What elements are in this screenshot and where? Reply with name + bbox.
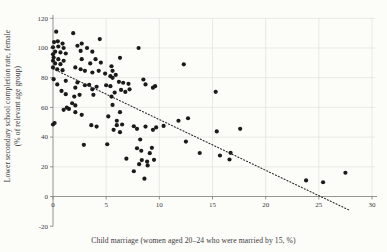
data-point xyxy=(110,76,114,80)
data-point xyxy=(80,57,84,61)
data-point xyxy=(104,83,108,87)
data-point xyxy=(136,46,140,50)
data-point xyxy=(52,40,56,44)
data-point xyxy=(114,73,118,77)
data-point xyxy=(148,151,152,155)
data-point xyxy=(85,46,89,50)
data-point xyxy=(132,169,136,173)
data-point xyxy=(56,57,60,61)
data-point xyxy=(123,90,127,94)
data-point xyxy=(91,93,95,97)
data-point xyxy=(90,87,94,91)
data-point xyxy=(145,160,149,164)
data-point xyxy=(52,121,56,125)
data-point xyxy=(110,69,114,73)
data-point xyxy=(141,77,145,81)
data-point xyxy=(60,41,64,45)
data-point xyxy=(138,137,142,141)
y-tick-label: 100 xyxy=(38,44,49,52)
y-tick-label: -20 xyxy=(39,223,49,231)
data-point xyxy=(53,61,57,65)
data-point xyxy=(79,67,83,71)
data-point xyxy=(142,177,146,181)
data-point xyxy=(56,44,60,48)
data-point xyxy=(62,59,66,63)
data-point xyxy=(215,129,219,133)
data-point xyxy=(71,31,75,35)
data-point xyxy=(60,68,64,72)
data-point xyxy=(89,123,93,127)
data-point xyxy=(87,83,91,87)
data-point xyxy=(94,85,98,89)
data-point xyxy=(135,127,139,131)
data-point xyxy=(58,50,62,54)
data-point xyxy=(124,157,128,161)
data-point xyxy=(80,113,84,117)
data-point xyxy=(151,128,155,132)
data-point xyxy=(110,103,114,107)
data-point xyxy=(161,124,165,128)
data-point xyxy=(72,94,76,98)
x-tick-label: 20 xyxy=(262,201,270,209)
data-point xyxy=(88,61,92,65)
data-point xyxy=(109,64,113,68)
data-point xyxy=(121,81,125,85)
data-point xyxy=(51,45,55,49)
data-point xyxy=(227,157,231,161)
data-point xyxy=(79,49,83,53)
data-point xyxy=(135,146,139,150)
data-point xyxy=(99,60,103,64)
data-point xyxy=(97,69,101,73)
data-point xyxy=(55,82,59,86)
x-tick-label: 15 xyxy=(209,201,217,209)
data-point xyxy=(139,149,143,153)
data-point xyxy=(64,51,68,55)
data-point xyxy=(75,44,79,48)
data-point xyxy=(126,82,130,86)
data-point xyxy=(112,128,116,132)
data-point xyxy=(55,67,59,71)
data-point xyxy=(93,57,97,61)
data-point xyxy=(58,62,62,66)
data-point xyxy=(52,77,56,81)
data-point xyxy=(98,37,102,41)
data-point xyxy=(109,94,113,98)
data-point xyxy=(214,90,218,94)
data-point xyxy=(77,93,81,97)
data-point xyxy=(118,130,122,134)
y-axis-title-line1: Lower secondary school completion rate, … xyxy=(3,0,13,221)
x-tick-label: 30 xyxy=(369,201,377,209)
data-point xyxy=(82,143,86,147)
data-point xyxy=(150,146,154,150)
data-point xyxy=(127,87,131,91)
x-tick-label: 25 xyxy=(315,201,323,209)
x-tick-label: 0 xyxy=(51,201,55,209)
data-point xyxy=(62,46,66,50)
data-point xyxy=(56,39,60,43)
x-axis-title: Child marriage (women aged 20–24 who wer… xyxy=(0,236,387,245)
data-point xyxy=(75,80,79,84)
data-point xyxy=(108,84,112,88)
data-point xyxy=(137,162,141,166)
data-point xyxy=(120,122,124,126)
y-tick-label: 40 xyxy=(41,133,49,141)
data-point xyxy=(90,70,94,74)
data-point xyxy=(51,65,55,69)
data-point xyxy=(54,30,58,34)
data-point xyxy=(198,151,202,155)
data-point xyxy=(115,123,119,127)
data-point xyxy=(73,65,77,69)
data-point xyxy=(304,178,308,182)
data-point xyxy=(73,103,77,107)
data-point xyxy=(73,86,77,90)
data-point xyxy=(238,127,242,131)
data-point xyxy=(67,107,71,111)
data-point xyxy=(343,171,347,175)
data-point xyxy=(218,153,222,157)
trend-line xyxy=(53,69,349,210)
x-tick-label: 5 xyxy=(104,201,108,209)
data-point xyxy=(119,88,123,92)
data-point xyxy=(140,158,144,162)
scatter-figure: -20020406080100120051015202530 Lower sec… xyxy=(0,0,387,252)
data-point xyxy=(118,110,122,114)
